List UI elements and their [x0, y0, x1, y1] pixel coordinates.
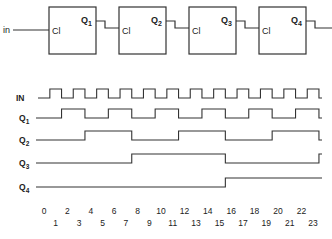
waveform-q2: [36, 131, 322, 140]
tick-label: 16: [226, 206, 236, 216]
waveform-q3: [36, 154, 322, 163]
tick-label: 15: [215, 218, 225, 228]
tick-label: 10: [156, 206, 166, 216]
output-wire-2: [166, 21, 189, 28]
clock-label: Cl: [122, 26, 131, 36]
output-wire-3: [236, 21, 259, 28]
clock-label: Cl: [262, 26, 271, 36]
output-label: Q3: [221, 15, 232, 27]
clock-label: Cl: [52, 26, 61, 36]
tick-label: 14: [203, 206, 213, 216]
tick-label: 21: [285, 218, 295, 228]
tick-label: 6: [112, 206, 117, 216]
clock-label: Cl: [192, 26, 201, 36]
signal-label: IN: [16, 93, 25, 103]
ripple-counter-diagram: inClQ1ClQ2ClQ3ClQ4INQ1Q2Q3Q4024681012141…: [0, 0, 332, 239]
tick-label: 17: [238, 218, 248, 228]
waveform-in: [38, 89, 322, 98]
signal-label: Q3: [19, 158, 30, 170]
waveform-q1: [36, 109, 322, 118]
tick-label: 0: [42, 206, 47, 216]
signal-label: Q2: [19, 135, 30, 147]
tick-label: 19: [262, 218, 272, 228]
tick-label: 4: [88, 206, 93, 216]
output-label: Q2: [151, 15, 162, 27]
output-label: Q1: [81, 15, 92, 27]
tick-label: 3: [77, 218, 82, 228]
tick-label: 22: [297, 206, 307, 216]
circuit: inClQ1ClQ2ClQ3ClQ4: [3, 7, 332, 54]
tick-label: 12: [180, 206, 190, 216]
tick-label: 9: [147, 218, 152, 228]
tick-label: 13: [191, 218, 201, 228]
tick-label: 23: [308, 218, 318, 228]
output-wire-1: [96, 21, 119, 28]
tick-label: 20: [273, 206, 283, 216]
input-label: in: [3, 25, 10, 35]
signal-label: Q1: [19, 113, 30, 125]
tick-label: 7: [124, 218, 129, 228]
tick-label: 1: [53, 218, 58, 228]
output-wire-4: [306, 21, 332, 28]
signal-label: Q4: [19, 182, 30, 194]
tick-label: 8: [135, 206, 140, 216]
tick-label: 11: [168, 218, 177, 228]
output-label: Q4: [291, 15, 302, 27]
tick-label: 2: [65, 206, 70, 216]
waveform-q4: [36, 178, 322, 187]
tick-label: 5: [100, 218, 105, 228]
tick-label: 18: [250, 206, 260, 216]
